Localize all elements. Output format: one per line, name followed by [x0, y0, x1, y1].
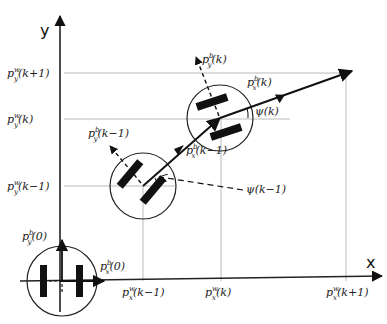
svg-text:pwy(k+1): pwy(k+1) [7, 66, 49, 83]
robot-k-minus-1: pby(k−1) pbx(k−1) ψ(k−1) [88, 118, 286, 219]
robot-origin: pby(0) pbx(0) [22, 229, 125, 316]
svg-text:pbx(0): pbx(0) [100, 259, 125, 276]
svg-text:pwx(k−1): pwx(k−1) [122, 285, 164, 302]
svg-text:pby(0): pby(0) [22, 229, 47, 246]
svg-text:pwy(k): pwy(k) [7, 112, 33, 129]
svg-text:ψ(k): ψ(k) [255, 105, 279, 118]
y-axis-label: y [40, 21, 49, 40]
svg-text:pby(k−1): pby(k−1) [88, 126, 129, 143]
svg-text:ψ(k−1): ψ(k−1) [246, 183, 286, 196]
svg-text:pby(k): pby(k) [202, 52, 227, 69]
svg-text:pbx(k): pbx(k) [247, 75, 272, 92]
robot-k: pby(k) pbx(k) ψ(k) [187, 52, 352, 151]
x-tick-labels: pwx(k−1) pwx(k) pwx(k+1) [122, 285, 368, 302]
svg-text:pwy(k−1): pwy(k−1) [7, 179, 49, 196]
svg-text:pwx(k): pwx(k) [205, 285, 231, 302]
svg-text:pwx(k+1): pwx(k+1) [326, 285, 368, 302]
y-tick-labels: pwy(k+1) pwy(k) pwy(k−1) [7, 66, 49, 196]
robot-kinematics-diagram: y x pwy(k+1) pwy(k) pwy(k−1) pwx(k−1) pw… [0, 0, 387, 324]
x-axis-label: x [366, 253, 375, 272]
